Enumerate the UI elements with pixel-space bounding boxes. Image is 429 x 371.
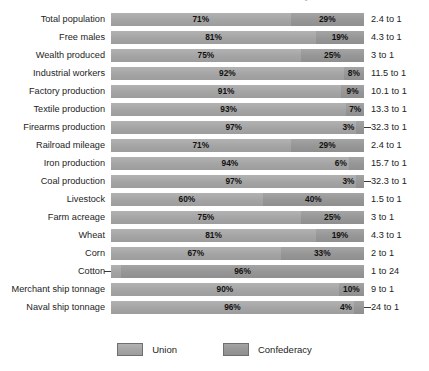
stacked-bar: 75%25% [111, 211, 364, 224]
bar-segment-confederacy: 29% [291, 13, 364, 26]
bar-value-union: 75% [198, 213, 215, 221]
row-category-label: Industrial workers [0, 67, 105, 80]
bar-segment-confederacy: 29% [291, 139, 364, 152]
bar-value-confederacy: 25% [324, 51, 341, 59]
value-leader-line-icon [104, 271, 111, 272]
row-ratio-label: 3 to 1 [371, 49, 394, 62]
legend-item-union[interactable]: Union [117, 343, 177, 356]
bar-value-union: 92% [219, 69, 236, 77]
legend-label: Confederacy [258, 344, 312, 355]
bar-value-confederacy: 6% [335, 159, 347, 167]
bar-segment-confederacy: 19% [316, 31, 364, 44]
chart-row: Factory production91%9%10.1 to 1 [0, 85, 429, 103]
bar-segment-confederacy: 3% [356, 175, 364, 188]
row-ratio-label: 4.3 to 1 [371, 31, 402, 44]
row-category-label: Factory production [0, 85, 105, 98]
bar-value-union: 97% [225, 123, 242, 131]
chart-row: Firearms production97%3%32.3 to 1 [0, 121, 429, 139]
stacked-bar: 90%10% [111, 283, 364, 296]
row-category-label: Naval ship tonnage [0, 301, 105, 314]
legend-swatch-icon [117, 343, 143, 356]
row-ratio-label: 1.5 to 1 [371, 193, 402, 206]
bar-segment-union: 67% [111, 247, 281, 260]
row-category-label: Railroad mileage [0, 139, 105, 152]
bar-value-confederacy: 3% [342, 123, 354, 131]
chart-row: Naval ship tonnage96%4%24 to 1 [0, 301, 429, 319]
stacked-bar: 71%29% [111, 139, 364, 152]
bar-segment-union: 97% [111, 121, 356, 134]
bar-segment-union: 81% [111, 229, 316, 242]
stacked-bar: 75%25% [111, 49, 364, 62]
bar-value-confederacy: 10% [343, 285, 360, 293]
bar-value-union: 67% [187, 249, 204, 257]
bar-segment-union: 71% [111, 13, 291, 26]
chart-row: Industrial workers92%8%11.5 to 1 [0, 67, 429, 85]
bar-value-confederacy: 96% [234, 267, 251, 275]
bar-value-confederacy: 3% [342, 177, 354, 185]
bar-value-confederacy: 4% [340, 303, 352, 311]
row-category-label: Merchant ship tonnage [0, 283, 105, 296]
bar-value-union: 75% [198, 51, 215, 59]
stacked-bar: 67%33% [111, 247, 364, 260]
bar-value-union: 60% [179, 195, 196, 203]
chart-row: Iron production94%6%15.7 to 1 [0, 157, 429, 175]
bar-value-union: 90% [217, 285, 234, 293]
bar-segment-union: 96% [111, 301, 354, 314]
value-leader-line-icon [364, 307, 371, 308]
row-ratio-label: 4.3 to 1 [371, 229, 402, 242]
chart-container: Resources of the Union and the Confedera… [0, 0, 429, 371]
bar-value-union: 94% [222, 159, 239, 167]
bar-value-confederacy: 19% [332, 231, 349, 239]
legend-item-conf[interactable]: Confederacy [223, 343, 312, 356]
bar-value-confederacy: 29% [319, 141, 336, 149]
bar-segment-confederacy: 8% [344, 67, 364, 80]
stacked-bar: 81%19% [111, 31, 364, 44]
chart-row: Textile production93%7%13.3 to 1 [0, 103, 429, 121]
row-ratio-label: 1 to 24 [371, 265, 399, 278]
chart-legend: UnionConfederacy [0, 339, 429, 359]
stacked-bar: 96%4% [111, 301, 364, 314]
bar-segment-union: 94% [111, 157, 349, 170]
row-category-label: Coal production [0, 175, 105, 188]
chart-row: Total population71%29%2.4 to 1 [0, 13, 429, 31]
row-ratio-label: 15.7 to 1 [371, 157, 407, 170]
row-ratio-label: 24 to 1 [371, 301, 399, 314]
bar-value-union: 71% [193, 15, 210, 23]
bar-value-union: 93% [220, 105, 237, 113]
bar-segment-confederacy: 3% [356, 121, 364, 134]
row-ratio-label: 3 to 1 [371, 211, 394, 224]
bar-segment-union: 4% [111, 265, 121, 278]
bar-segment-confederacy: 40% [263, 193, 364, 206]
row-ratio-label: 32.3 to 1 [371, 175, 407, 188]
bar-segment-confederacy: 96% [121, 265, 364, 278]
row-category-label: Firearms production [0, 121, 105, 134]
stacked-bar: 97%3% [111, 175, 364, 188]
chart-row: Railroad mileage71%29%2.4 to 1 [0, 139, 429, 157]
chart-row: Farm acreage75%25%3 to 1 [0, 211, 429, 229]
chart-row: Coal production97%3%32.3 to 1 [0, 175, 429, 193]
stacked-bar: 71%29% [111, 13, 364, 26]
bar-value-confederacy: 40% [305, 195, 322, 203]
row-category-label: Farm acreage [0, 211, 105, 224]
bar-value-confederacy: 9% [347, 87, 359, 95]
bar-segment-confederacy: 33% [281, 247, 364, 260]
chart-title: Resources of the Union and the Confedera… [0, 0, 429, 3]
bar-segment-union: 75% [111, 211, 301, 224]
row-category-label: Corn [0, 247, 105, 260]
bar-segment-confederacy: 19% [316, 229, 364, 242]
bar-value-confederacy: 7% [349, 105, 361, 113]
row-ratio-label: 13.3 to 1 [371, 103, 407, 116]
bar-value-confederacy: 29% [319, 15, 336, 23]
stacked-bar: 60%40% [111, 193, 364, 206]
stacked-bar: 4%96% [111, 265, 364, 278]
chart-row: Merchant ship tonnage90%10%9 to 1 [0, 283, 429, 301]
bar-value-union: 97% [225, 177, 242, 185]
bar-segment-union: 75% [111, 49, 301, 62]
bar-segment-confederacy: 25% [301, 211, 364, 224]
chart-plot-area: Total population71%29%2.4 to 1Free males… [0, 13, 429, 319]
bar-segment-union: 60% [111, 193, 263, 206]
value-leader-line-icon [364, 127, 371, 128]
row-ratio-label: 2.4 to 1 [371, 139, 402, 152]
row-ratio-label: 11.5 to 1 [371, 67, 406, 80]
row-ratio-label: 32.3 to 1 [371, 121, 407, 134]
